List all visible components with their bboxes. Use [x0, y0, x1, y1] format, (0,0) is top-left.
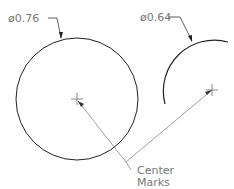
arrowhead-icon	[188, 35, 192, 42]
dimension-leader-large	[48, 18, 61, 38]
arrowhead-icon	[78, 101, 84, 107]
dimension-leader-small	[168, 17, 192, 41]
arrowhead-icon	[59, 32, 63, 39]
diameter-label-large: ø0.76	[8, 12, 39, 25]
callout-leaders	[78, 90, 212, 170]
diameter-label-small: ø0.64	[140, 11, 171, 24]
small-arc	[163, 40, 228, 104]
drawing-canvas: ø0.76 ø0.64 Center Marks	[0, 0, 234, 189]
arrowhead-icon	[205, 90, 212, 95]
callout-line-2: Marks	[137, 176, 170, 189]
